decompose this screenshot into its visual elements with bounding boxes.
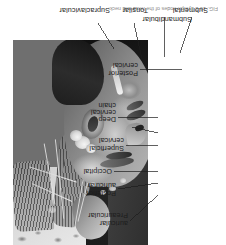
leader-posterior-auricular xyxy=(118,183,158,189)
label-posterior-auricular: Posterior auricular xyxy=(86,181,116,197)
label-submental: Submental xyxy=(173,6,208,14)
label-superficial-cervical: Superficial cervical xyxy=(89,136,124,152)
label-supraclavicular: Supraclavicular xyxy=(59,6,110,14)
label-posterior-cervical: Posterior cervical xyxy=(108,61,138,77)
label-preauricular: auricular Preauricular xyxy=(88,211,128,227)
label-tonsilar: Tonsilar xyxy=(122,6,148,14)
label-deep-cervical-chain: Deep cervical chain xyxy=(91,100,116,123)
leader-deep-cervical-chain-2 xyxy=(132,127,158,133)
label-occipital: Occipital xyxy=(84,167,112,175)
anatomy-figure: FIG. 16-2 Lymph nodes of the head and ne… xyxy=(0,0,226,245)
label-submandibular: Submandibular xyxy=(142,15,192,23)
leader-supraclavicular xyxy=(98,23,114,49)
leader-tonsilar xyxy=(134,23,142,59)
leader-preauricular xyxy=(130,195,158,221)
